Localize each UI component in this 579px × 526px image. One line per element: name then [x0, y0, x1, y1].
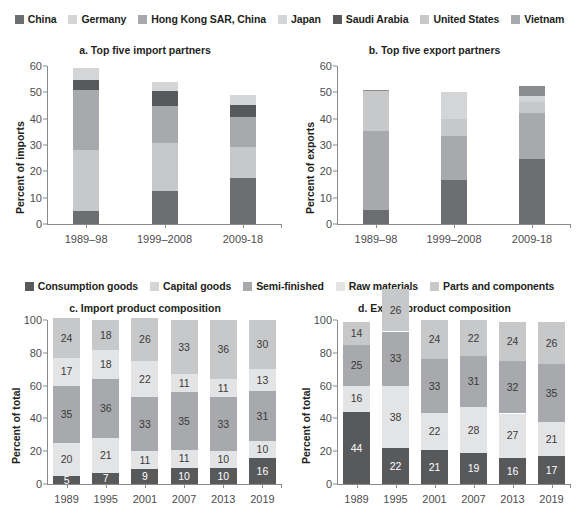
- bar-segment[interactable]: 35: [53, 386, 80, 443]
- bar-segment[interactable]: [152, 82, 178, 91]
- legend-item[interactable]: Hong Kong SAR, China: [138, 14, 266, 25]
- legend-item[interactable]: United States: [420, 14, 499, 25]
- legend-item[interactable]: Parts and components: [430, 281, 554, 292]
- bar-segment[interactable]: 33: [421, 359, 448, 413]
- bar-segment[interactable]: 19: [460, 453, 487, 484]
- legend-item[interactable]: Germany: [68, 14, 126, 25]
- bar-segment[interactable]: 10: [171, 468, 198, 484]
- bar-segment[interactable]: [230, 95, 256, 105]
- bar-segment[interactable]: 10: [210, 451, 237, 467]
- legend-item[interactable]: Vietnam: [511, 14, 564, 25]
- bar-segment[interactable]: 11: [171, 450, 198, 468]
- bar-segment[interactable]: 25: [343, 345, 370, 386]
- stacked-bar[interactable]: [152, 66, 178, 224]
- legend-item[interactable]: China: [15, 14, 57, 25]
- bar-segment[interactable]: [230, 117, 256, 147]
- bar-segment[interactable]: 21: [538, 422, 565, 456]
- bar-segment[interactable]: 17: [538, 456, 565, 484]
- stacked-bar[interactable]: 1010331136: [210, 320, 237, 484]
- bar-segment[interactable]: 13: [249, 369, 276, 390]
- bar-segment[interactable]: [441, 92, 467, 119]
- stacked-bar[interactable]: 721361818: [92, 320, 119, 484]
- bar-segment[interactable]: 26: [131, 318, 158, 361]
- bar-segment[interactable]: 24: [499, 322, 526, 361]
- bar-segment[interactable]: 33: [171, 320, 198, 374]
- bar-segment[interactable]: 36: [210, 320, 237, 379]
- bar-segment[interactable]: [230, 147, 256, 177]
- bar-segment[interactable]: [73, 90, 99, 150]
- stacked-bar[interactable]: 19283122: [460, 320, 487, 484]
- bar-segment[interactable]: 5: [53, 476, 80, 484]
- stacked-bar[interactable]: [230, 66, 256, 224]
- bar-segment[interactable]: 9: [131, 469, 158, 484]
- bar-segment[interactable]: 16: [343, 386, 370, 412]
- bar-segment[interactable]: 24: [421, 320, 448, 359]
- bar-segment[interactable]: [519, 96, 545, 102]
- bar-segment[interactable]: 22: [421, 413, 448, 449]
- bar-segment[interactable]: 26: [382, 289, 409, 332]
- bar-segment[interactable]: 10: [210, 468, 237, 484]
- stacked-bar[interactable]: 1011351133: [171, 320, 198, 484]
- bar-segment[interactable]: [519, 113, 545, 159]
- bar-segment[interactable]: 33: [382, 332, 409, 386]
- stacked-bar[interactable]: 520351724: [53, 320, 80, 484]
- bar-segment[interactable]: 14: [343, 322, 370, 345]
- bar-segment[interactable]: 20: [53, 443, 80, 476]
- stacked-bar[interactable]: 21223324: [421, 320, 448, 484]
- bar-segment[interactable]: [152, 91, 178, 106]
- bar-segment[interactable]: [152, 106, 178, 143]
- bar-segment[interactable]: 22: [382, 448, 409, 484]
- legend-item[interactable]: Japan: [278, 14, 321, 25]
- bar-segment[interactable]: 33: [210, 397, 237, 451]
- bar-segment[interactable]: 31: [460, 356, 487, 407]
- bar-segment[interactable]: [73, 68, 99, 80]
- bar-segment[interactable]: [363, 90, 389, 91]
- bar-segment[interactable]: [441, 119, 467, 136]
- bar-segment[interactable]: [230, 178, 256, 224]
- legend-item[interactable]: Consumption goods: [25, 281, 138, 292]
- stacked-bar[interactable]: 44162514: [343, 320, 370, 484]
- bar-segment[interactable]: 36: [92, 379, 119, 438]
- bar-segment[interactable]: 38: [382, 386, 409, 448]
- bar-segment[interactable]: 10: [249, 441, 276, 457]
- bar-segment[interactable]: 17: [53, 358, 80, 386]
- bar-segment[interactable]: 16: [249, 458, 276, 484]
- legend-item[interactable]: Capital goods: [150, 281, 231, 292]
- bar-segment[interactable]: 35: [171, 392, 198, 449]
- bar-segment[interactable]: 35: [538, 364, 565, 421]
- bar-segment[interactable]: 7: [92, 473, 119, 484]
- stacked-bar[interactable]: 17213526: [538, 320, 565, 484]
- bar-segment[interactable]: [73, 80, 99, 90]
- bar-segment[interactable]: [73, 150, 99, 211]
- stacked-bar[interactable]: 911332226: [131, 320, 158, 484]
- stacked-bar[interactable]: 1610311330: [249, 320, 276, 484]
- bar-segment[interactable]: 22: [460, 320, 487, 356]
- bar-segment[interactable]: [152, 143, 178, 191]
- bar-segment[interactable]: 21: [92, 438, 119, 472]
- stacked-bar[interactable]: [441, 66, 467, 224]
- bar-segment[interactable]: [363, 131, 389, 210]
- bar-segment[interactable]: 11: [210, 379, 237, 397]
- bar-segment[interactable]: 33: [131, 397, 158, 451]
- bar-segment[interactable]: [152, 191, 178, 224]
- bar-segment[interactable]: 21: [421, 450, 448, 484]
- bar-segment[interactable]: 27: [499, 414, 526, 458]
- bar-segment[interactable]: 11: [171, 374, 198, 392]
- bar-segment[interactable]: 18: [92, 320, 119, 350]
- bar-segment[interactable]: 11: [131, 451, 158, 469]
- bar-segment[interactable]: 32: [499, 361, 526, 413]
- stacked-bar[interactable]: [519, 66, 545, 224]
- bar-segment[interactable]: 30: [249, 320, 276, 369]
- stacked-bar[interactable]: 22383326: [382, 320, 409, 484]
- bar-segment[interactable]: 18: [92, 350, 119, 380]
- stacked-bar[interactable]: [363, 66, 389, 224]
- bar-segment[interactable]: [519, 86, 545, 96]
- bar-segment[interactable]: [519, 159, 545, 224]
- bar-segment[interactable]: 16: [499, 458, 526, 484]
- bar-segment[interactable]: [73, 211, 99, 224]
- bar-segment[interactable]: 24: [53, 318, 80, 357]
- bar-segment[interactable]: 44: [343, 412, 370, 484]
- bar-segment[interactable]: 28: [460, 407, 487, 453]
- bar-segment[interactable]: [441, 180, 467, 224]
- bar-segment[interactable]: 22: [131, 361, 158, 397]
